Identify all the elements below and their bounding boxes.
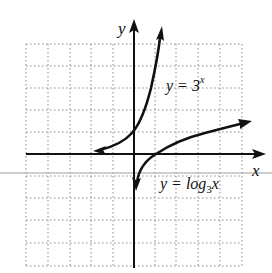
exponential-label: y = 3x: [164, 74, 205, 95]
graph-canvas: y x y = 3x y = log3x: [0, 0, 272, 273]
logarithm-arrow-end-icon: [238, 119, 252, 129]
x-axis-label: x: [251, 161, 260, 180]
logarithm-label: y = log3x: [158, 175, 219, 195]
exponential-curve: [100, 38, 160, 150]
y-axis-label: y: [116, 19, 126, 38]
axes: [26, 19, 266, 268]
